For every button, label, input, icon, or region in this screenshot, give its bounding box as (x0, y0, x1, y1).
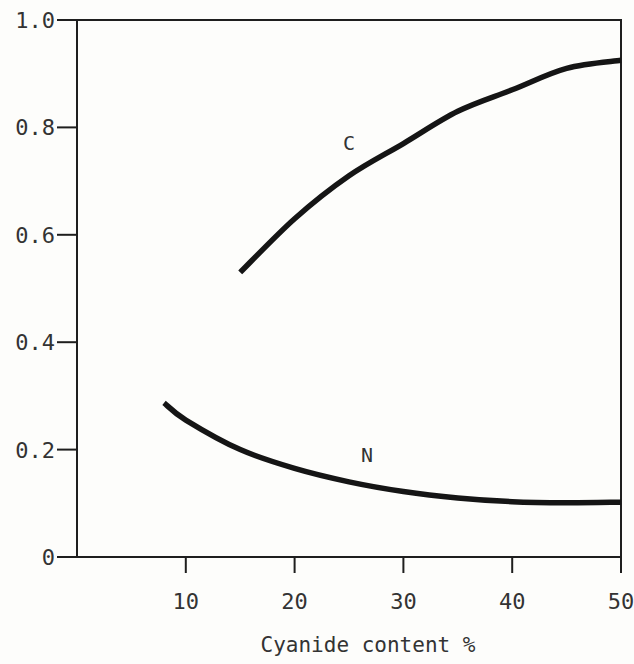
x-tick-label: 40 (499, 589, 526, 614)
y-axis-ticks: 00.20.40.60.81.0 (15, 8, 77, 570)
y-tick-label: 0.6 (15, 223, 55, 248)
curve-n (164, 403, 621, 503)
curve-label-n: N (361, 443, 373, 467)
x-axis-title: Cyanide content % (261, 633, 476, 657)
x-tick-label: 10 (173, 589, 200, 614)
series-group (164, 60, 621, 502)
y-tick-label: 0.8 (15, 115, 55, 140)
y-tick-label: 0.2 (15, 438, 55, 463)
plot-frame (77, 20, 621, 557)
curve-labels: CN (343, 131, 373, 467)
y-tick-label: 0.4 (15, 330, 55, 355)
x-tick-label: 20 (281, 589, 308, 614)
line-chart: 00.20.40.60.81.0 1020304050 CN Cyanide c… (0, 0, 634, 664)
y-tick-label: 1.0 (15, 8, 55, 33)
curve-c (240, 60, 621, 272)
x-axis-ticks: 1020304050 (173, 557, 634, 614)
y-tick-label: 0 (42, 545, 55, 570)
x-tick-label: 30 (390, 589, 417, 614)
axes (77, 20, 621, 557)
x-tick-label: 50 (608, 589, 634, 614)
curve-label-c: C (343, 131, 355, 155)
